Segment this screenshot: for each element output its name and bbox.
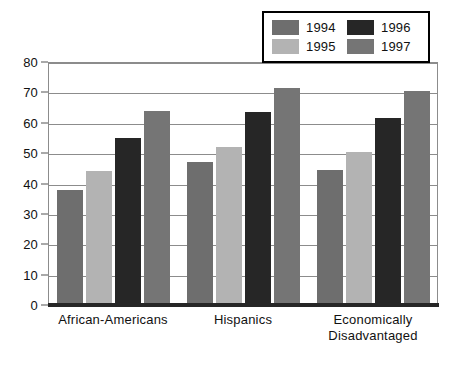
legend-item-1995: 1995 — [272, 39, 347, 54]
legend-label-1995: 1995 — [306, 39, 336, 54]
legend-swatch-1996 — [347, 20, 374, 35]
y-tick-mark — [41, 62, 48, 63]
legend-label-1996: 1996 — [381, 20, 411, 35]
y-tick-label: 70 — [23, 85, 38, 100]
category-label: African-Americans — [48, 312, 178, 328]
y-tick-20: 20 — [23, 237, 48, 252]
bar-1996 — [375, 118, 401, 305]
legend-swatch-1994 — [272, 20, 299, 35]
y-tick-label: 30 — [23, 206, 38, 221]
legend-label-1994: 1994 — [306, 20, 336, 35]
bar-1997 — [274, 88, 300, 305]
y-tick-mark — [41, 244, 48, 245]
y-tick-label: 60 — [23, 115, 38, 130]
y-tick-mark — [41, 153, 48, 154]
bar-group — [57, 62, 170, 305]
y-tick-label: 40 — [23, 176, 38, 191]
y-tick-label: 10 — [23, 267, 38, 282]
bar-1995 — [346, 152, 372, 305]
y-tick-label: 0 — [31, 298, 38, 313]
bar-1994 — [187, 162, 213, 305]
bars-layer — [48, 62, 438, 305]
y-tick-label: 80 — [23, 55, 38, 70]
y-tick-40: 40 — [23, 176, 48, 191]
bar-1995 — [216, 147, 242, 305]
bar-1996 — [245, 112, 271, 305]
bar-chart: 1994 1996 1995 1997 80706050403020100 Af… — [0, 0, 455, 365]
y-tick-70: 70 — [23, 85, 48, 100]
y-tick-0: 0 — [31, 298, 48, 313]
y-tick-mark — [41, 122, 48, 123]
bar-1995 — [86, 171, 112, 305]
x-axis-labels: African-AmericansHispanicsEconomically D… — [48, 312, 438, 360]
legend-swatch-1995 — [272, 39, 299, 54]
bar-1994 — [57, 190, 83, 305]
y-tick-mark — [41, 92, 48, 93]
y-tick-mark — [41, 183, 48, 184]
x-axis-baseline — [48, 303, 439, 307]
bar-1994 — [317, 170, 343, 305]
y-tick-30: 30 — [23, 206, 48, 221]
y-tick-label: 50 — [23, 146, 38, 161]
bar-group — [317, 62, 430, 305]
legend-item-1994: 1994 — [272, 20, 347, 35]
legend-label-1997: 1997 — [381, 39, 411, 54]
bar-group — [187, 62, 300, 305]
y-tick-60: 60 — [23, 115, 48, 130]
y-tick-mark — [41, 305, 48, 306]
bar-1997 — [404, 91, 430, 305]
legend-item-1997: 1997 — [347, 39, 422, 54]
y-tick-mark — [41, 213, 48, 214]
y-tick-80: 80 — [23, 55, 48, 70]
legend-swatch-1997 — [347, 39, 374, 54]
y-tick-50: 50 — [23, 146, 48, 161]
bar-1996 — [115, 138, 141, 305]
bar-1997 — [144, 111, 170, 305]
category-label: Economically Disadvantaged — [308, 312, 438, 344]
legend-item-1996: 1996 — [347, 20, 422, 35]
y-tick-mark — [41, 274, 48, 275]
y-tick-10: 10 — [23, 267, 48, 282]
y-tick-label: 20 — [23, 237, 38, 252]
y-axis: 80706050403020100 — [0, 62, 48, 305]
category-label: Hispanics — [178, 312, 308, 328]
chart-legend: 1994 1996 1995 1997 — [262, 11, 430, 63]
